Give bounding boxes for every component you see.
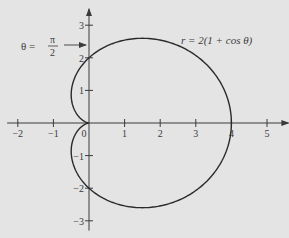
labels: r = 2(1 + cos θ) θ = π 2 <box>21 34 253 58</box>
x-tick-label: 2 <box>158 128 163 139</box>
equation-label: r = 2(1 + cos θ) <box>181 34 253 47</box>
y-tick-label: −1 <box>73 151 84 162</box>
x-tick-label: −2 <box>12 128 23 139</box>
x-tick-label: 5 <box>265 128 270 139</box>
polar-plot: −2−1012345−3−2−1123 r = 2(1 + cos θ) θ =… <box>0 0 289 238</box>
x-tick-label: 1 <box>122 128 127 139</box>
y-tick-label: 1 <box>79 85 84 96</box>
y-tick-label: 2 <box>79 53 84 64</box>
y-tick-label: 3 <box>79 20 84 31</box>
pi-numerator: π <box>50 34 55 45</box>
theta-label: θ = <box>21 40 35 52</box>
y-tick-label: −3 <box>73 216 84 227</box>
x-tick-label: 0 <box>82 128 87 139</box>
x-tick-label: 3 <box>193 128 198 139</box>
x-tick-label: −1 <box>48 128 59 139</box>
y-tick-label: −2 <box>73 183 84 194</box>
pi-denominator: 2 <box>50 47 55 58</box>
